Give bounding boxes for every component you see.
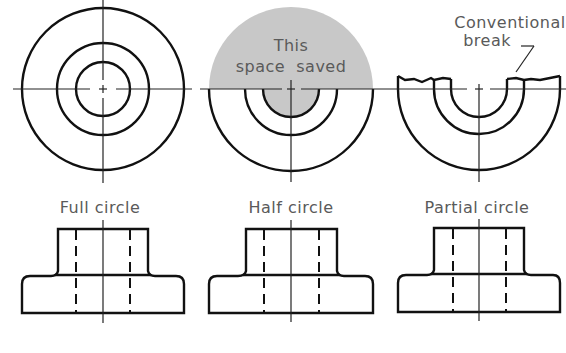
annotation-break: break (463, 31, 511, 50)
label-full-circle: Full circle (60, 198, 141, 217)
leader-line (516, 46, 534, 72)
full-circle-front-view (22, 220, 184, 323)
partial-circle-front-view (398, 219, 560, 321)
annotation-space-saved: space saved (236, 57, 347, 76)
break-line-right (507, 76, 560, 80)
label-half-circle: Half circle (248, 198, 333, 217)
half-circle-front-view (209, 220, 373, 322)
annotation-conventional: Conventional (454, 13, 565, 32)
half-circle-top-view: This space saved (200, 7, 383, 182)
drawing-canvas: This space saved Conventional break Full… (0, 0, 566, 353)
annotation-this: This (273, 36, 309, 55)
partial-circle-top-view: Conventional break (383, 13, 566, 182)
break-line-left (398, 76, 451, 82)
full-circle-top-view (13, 0, 192, 183)
label-partial-circle: Partial circle (425, 198, 530, 217)
